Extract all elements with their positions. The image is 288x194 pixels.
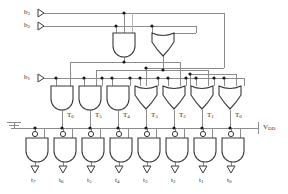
buffer-triangle-b2-icon — [38, 22, 44, 30]
gate-t7 — [26, 131, 48, 162]
output-label-t2: t2 — [171, 177, 175, 184]
output-arrow-t2-icon — [171, 166, 179, 173]
ground-symbol — [7, 122, 21, 128]
output-arrow-t6-icon — [59, 166, 67, 173]
output-arrow-t7-icon — [31, 166, 39, 173]
t-gate-label-T1: T1 — [207, 112, 214, 119]
output-label-t5: t5 — [87, 177, 91, 184]
output-label-t4: t4 — [115, 177, 119, 184]
buffer-triangle-b1-icon — [38, 74, 44, 82]
inverter-bubble-icon — [88, 131, 93, 136]
inverter-bubble-icon — [172, 131, 177, 136]
output-terminals — [31, 166, 235, 173]
t-gate-label-T0: T0 — [235, 112, 242, 119]
gate-T3 — [135, 86, 157, 109]
inverter-bubble-icon — [228, 131, 233, 136]
output-arrow-t5-icon — [87, 166, 95, 173]
gate-t1 — [194, 131, 216, 162]
inverter-bubble-icon — [200, 131, 205, 136]
gate-t0 — [222, 131, 244, 162]
input-label-b2: b2 — [24, 22, 30, 29]
t-gate-label-T6: T6 — [67, 112, 74, 119]
t-gate-label-T3: T3 — [151, 112, 158, 119]
gate-T4 — [107, 86, 129, 110]
gate-t6 — [54, 131, 76, 162]
t-gate-label-T5: T5 — [95, 112, 102, 119]
gate-t5 — [82, 131, 104, 162]
input-label-b1: b1 — [24, 74, 30, 81]
gate-T2 — [163, 86, 185, 109]
vdd-label: VDD — [263, 124, 275, 131]
t-gate-row — [51, 86, 241, 110]
output-arrow-t1-icon — [199, 166, 207, 173]
buffer-triangle-b3-icon — [38, 9, 44, 17]
input-label-b3: b3 — [24, 9, 30, 16]
inverter-bubble-icon — [116, 131, 121, 136]
output-label-t3: t3 — [143, 177, 147, 184]
gate-T0 — [219, 86, 241, 109]
output-label-t7: t7 — [31, 177, 35, 184]
output-label-t1: t1 — [199, 177, 203, 184]
gate-t2 — [166, 131, 188, 162]
gate-T1 — [191, 86, 213, 109]
circuit-diagram-canvas: b3 b2 b1 T6 T5 T4 T3 T2 T1 T0 t7 t6 t5 t… — [0, 0, 288, 194]
input-buffers — [38, 9, 44, 82]
gate-T5 — [79, 86, 101, 110]
gate-t3 — [138, 131, 160, 162]
output-label-t0: t0 — [227, 177, 231, 184]
inverter-bubble-icon — [60, 131, 65, 136]
output-arrow-t3-icon — [143, 166, 151, 173]
output-gate-row — [26, 131, 244, 162]
t-gate-label-T2: T2 — [179, 112, 186, 119]
t-gate-label-T4: T4 — [123, 112, 130, 119]
gate-t4 — [110, 131, 132, 162]
output-label-t6: t6 — [59, 177, 63, 184]
gate-T6 — [51, 86, 73, 110]
output-arrow-t4-icon — [115, 166, 123, 173]
circuit-svg — [0, 0, 288, 194]
inverter-bubble-icon — [144, 131, 149, 136]
output-arrow-t0-icon — [227, 166, 235, 173]
top-and-gate — [113, 33, 135, 57]
top-xor-gate — [152, 33, 174, 56]
inverter-bubble-icon — [32, 131, 37, 136]
